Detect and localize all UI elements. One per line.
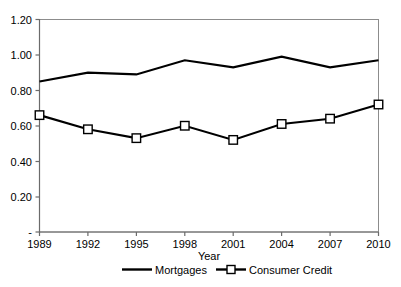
- data-point-marker: [181, 122, 190, 131]
- series-line-mortgages: [40, 57, 379, 82]
- x-axis-title: Year: [198, 250, 221, 262]
- data-point-marker: [35, 111, 44, 120]
- legend-label-mortgages: Mortgages: [155, 264, 207, 276]
- x-tick-label-1998: 1998: [173, 238, 197, 250]
- y-tick-label-060: 0.60: [11, 120, 32, 132]
- chart-canvas: 1.20 1.00 0.80 0.60 0.40 0.20 - 1989 199…: [0, 0, 401, 287]
- y-tick-label-080: 0.80: [11, 85, 32, 97]
- y-tick-label-120: 1.20: [11, 14, 32, 26]
- y-tick-label-zero: -: [28, 226, 32, 238]
- x-tick-label-2004: 2004: [269, 238, 293, 250]
- x-tick-label-1995: 1995: [124, 238, 148, 250]
- data-point-marker: [229, 136, 238, 145]
- y-tick-label-020: 0.20: [11, 191, 32, 203]
- y-tick-label-040: 0.40: [11, 156, 32, 168]
- legend-label-consumer-credit: Consumer Credit: [249, 264, 332, 276]
- data-point-marker: [374, 100, 383, 109]
- y-tick-label-100: 1.00: [11, 49, 32, 61]
- x-tick-label-2010: 2010: [366, 238, 390, 250]
- line-chart: 1.20 1.00 0.80 0.60 0.40 0.20 - 1989 199…: [0, 0, 401, 287]
- legend: Mortgages Consumer Credit: [122, 264, 332, 276]
- x-tick-label-2001: 2001: [221, 238, 245, 250]
- data-point-marker: [326, 114, 335, 123]
- x-tick-label-1989: 1989: [27, 238, 51, 250]
- legend-marker-square-icon: [227, 266, 235, 274]
- x-tick-label-2007: 2007: [318, 238, 342, 250]
- x-tick-marks: [40, 232, 379, 236]
- series-markers-consumer-credit: [35, 100, 383, 144]
- x-tick-label-1992: 1992: [76, 238, 100, 250]
- data-point-marker: [132, 134, 141, 143]
- data-point-marker: [84, 125, 93, 134]
- data-point-marker: [277, 120, 286, 129]
